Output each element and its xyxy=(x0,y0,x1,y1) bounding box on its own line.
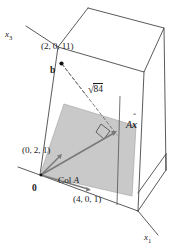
box-edge-bottom-right xyxy=(138,170,166,211)
axis-label-x1: x1 xyxy=(144,233,151,244)
point-label-b: b xyxy=(50,66,55,76)
plane-label-col-a: Col A xyxy=(58,176,79,185)
projection-label-ax-hat: Aˆx xyxy=(126,120,137,130)
figure-container: x3 (2, 0, 11) b √84 Aˆx (0, 2, 1) Col A … xyxy=(0,0,171,250)
diagram-canvas xyxy=(0,0,171,250)
point-label-4-0-1: (4, 0, 1) xyxy=(73,195,101,204)
axis-label-x1-sub: 1 xyxy=(148,237,151,244)
col-a-plane xyxy=(40,104,136,196)
plane-label-matrix: A xyxy=(74,175,80,185)
x2-axis-segment-left xyxy=(18,167,40,175)
axis-label-x3: x3 xyxy=(5,30,12,41)
vector-to-4-0-1-arrowhead xyxy=(86,187,91,192)
hat-accent-icon: ˆ xyxy=(133,114,136,122)
perpendicular-dashed-upper-tick xyxy=(62,64,86,95)
point-label-b-coordinates: (2, 0, 11) xyxy=(41,42,73,51)
point-label-0-2-1: (0, 2, 1) xyxy=(22,146,50,155)
axis-label-x3-sub: 3 xyxy=(9,34,12,41)
box-top-face-edges xyxy=(58,8,164,72)
projection-label-xhat: ˆx xyxy=(132,120,137,130)
origin-label: 0 xyxy=(32,184,37,194)
distance-label-sqrt84: √84 xyxy=(88,84,103,95)
point-marker-origin xyxy=(40,174,43,177)
box-edge-front-right-vertical xyxy=(138,72,144,211)
plane-label-prefix: Col xyxy=(58,175,74,185)
point-marker-b xyxy=(59,61,63,65)
distance-label-radicand: 84 xyxy=(93,83,103,94)
box-edge-bottom-right-inner xyxy=(138,154,166,193)
box-edge-back-right-vertical xyxy=(164,28,166,170)
x1-axis-line xyxy=(138,211,158,235)
